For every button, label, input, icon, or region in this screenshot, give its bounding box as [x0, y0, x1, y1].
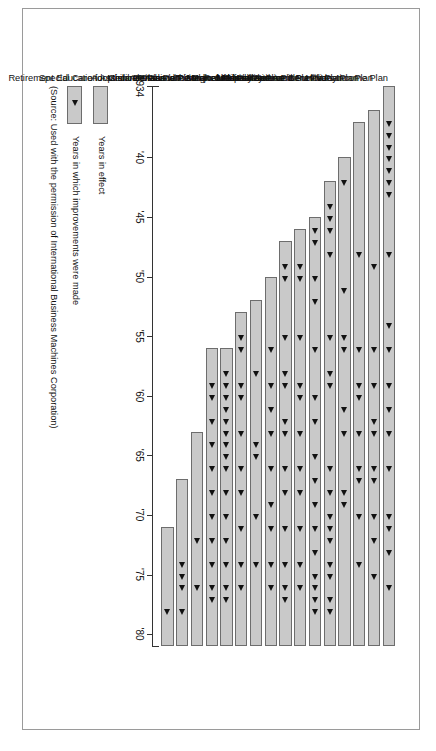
improvement-marker-icon	[238, 490, 244, 496]
improvement-marker-icon	[341, 490, 347, 496]
source-note: (Source: Used with the permission of Int…	[49, 86, 59, 429]
improvement-marker-icon	[371, 418, 377, 424]
improvement-marker-icon	[371, 347, 377, 353]
improvement-marker-icon	[341, 287, 347, 293]
improvement-marker-icon	[253, 442, 259, 448]
x-axis-tick	[147, 157, 153, 158]
improvement-marker-icon	[356, 382, 362, 388]
improvement-marker-icon	[282, 430, 288, 436]
improvement-marker-icon	[209, 394, 215, 400]
improvement-marker-icon	[297, 525, 303, 531]
improvement-marker-icon	[312, 347, 318, 353]
improvement-marker-icon	[238, 347, 244, 353]
x-axis-tick-label: '40	[134, 150, 145, 163]
improvement-marker-icon	[72, 100, 78, 106]
improvement-marker-icon	[327, 561, 333, 567]
improvement-marker-icon	[238, 561, 244, 567]
improvement-marker-icon	[371, 478, 377, 484]
improvement-marker-icon	[268, 406, 274, 412]
improvement-marker-icon	[268, 502, 274, 508]
improvement-marker-icon	[386, 132, 392, 138]
legend-swatch-bar-with-marker	[67, 86, 82, 124]
improvement-marker-icon	[209, 442, 215, 448]
improvement-marker-icon	[223, 430, 229, 436]
improvement-marker-icon	[209, 537, 215, 543]
improvement-marker-icon	[312, 454, 318, 460]
improvement-marker-icon	[253, 561, 259, 567]
improvement-marker-icon	[371, 466, 377, 472]
improvement-marker-icon	[356, 466, 362, 472]
improvement-marker-icon	[327, 525, 333, 531]
improvement-marker-icon	[223, 370, 229, 376]
chart-bar	[309, 217, 321, 646]
x-axis-tick	[147, 395, 153, 396]
x-axis-tick	[147, 514, 153, 515]
improvement-marker-icon	[371, 537, 377, 543]
improvement-marker-icon	[371, 573, 377, 579]
improvement-marker-icon	[386, 251, 392, 257]
category-label: Retirement Education Assistance Plan	[9, 73, 167, 83]
improvement-marker-icon	[223, 597, 229, 603]
improvement-marker-icon	[297, 275, 303, 281]
improvement-marker-icon	[386, 323, 392, 329]
chart-bar	[324, 181, 336, 646]
improvement-marker-icon	[386, 144, 392, 150]
chart-bar	[191, 431, 203, 645]
improvement-marker-icon	[312, 597, 318, 603]
improvement-marker-icon	[297, 490, 303, 496]
improvement-marker-icon	[312, 239, 318, 245]
improvement-marker-icon	[327, 251, 333, 257]
improvement-marker-icon	[253, 454, 259, 460]
improvement-marker-icon	[238, 466, 244, 472]
improvement-marker-icon	[268, 382, 274, 388]
improvement-marker-icon	[282, 490, 288, 496]
improvement-marker-icon	[297, 394, 303, 400]
x-axis-tick-label: '80	[134, 627, 145, 640]
improvement-marker-icon	[312, 478, 318, 484]
chart-bar	[265, 276, 277, 645]
improvement-marker-icon	[312, 573, 318, 579]
improvement-marker-icon	[297, 430, 303, 436]
improvement-marker-icon	[386, 585, 392, 591]
x-axis-tick-label: '70	[134, 508, 145, 521]
improvement-marker-icon	[327, 513, 333, 519]
improvement-marker-icon	[282, 382, 288, 388]
improvement-marker-icon	[356, 251, 362, 257]
x-axis-tick	[147, 574, 153, 575]
improvement-marker-icon	[341, 406, 347, 412]
x-axis-tick	[147, 217, 153, 218]
legend-label-improvements: Years in which improvements were made	[71, 136, 81, 305]
legend-swatch-bar	[93, 86, 108, 124]
improvement-marker-icon	[327, 490, 333, 496]
improvement-marker-icon	[268, 585, 274, 591]
x-axis-tick-label: '50	[134, 270, 145, 283]
improvement-marker-icon	[223, 442, 229, 448]
x-axis-tick	[147, 276, 153, 277]
improvement-marker-icon	[268, 561, 274, 567]
x-axis-tick-label: '75	[134, 567, 145, 580]
figure-page: 1934'40'45'50'55'60'65'70'75'80 Years in…	[0, 0, 436, 751]
x-axis-tick-label: '60	[134, 389, 145, 402]
improvement-marker-icon	[341, 180, 347, 186]
improvement-marker-icon	[209, 597, 215, 603]
chart-bar	[279, 240, 291, 645]
improvement-marker-icon	[223, 537, 229, 543]
improvement-marker-icon	[297, 466, 303, 472]
improvement-marker-icon	[268, 347, 274, 353]
improvement-marker-icon	[238, 335, 244, 341]
improvement-marker-icon	[312, 275, 318, 281]
improvement-marker-icon	[386, 525, 392, 531]
improvement-marker-icon	[312, 585, 318, 591]
chart-bar	[353, 121, 365, 645]
chart-bar	[161, 526, 173, 645]
improvement-marker-icon	[223, 561, 229, 567]
improvement-marker-icon	[312, 418, 318, 424]
improvement-marker-icon	[297, 585, 303, 591]
improvement-marker-icon	[297, 335, 303, 341]
improvement-marker-icon	[268, 466, 274, 472]
x-axis-cap	[152, 646, 159, 647]
improvement-marker-icon	[282, 597, 288, 603]
improvement-marker-icon	[179, 609, 185, 615]
improvement-marker-icon	[327, 216, 333, 222]
improvement-marker-icon	[209, 561, 215, 567]
